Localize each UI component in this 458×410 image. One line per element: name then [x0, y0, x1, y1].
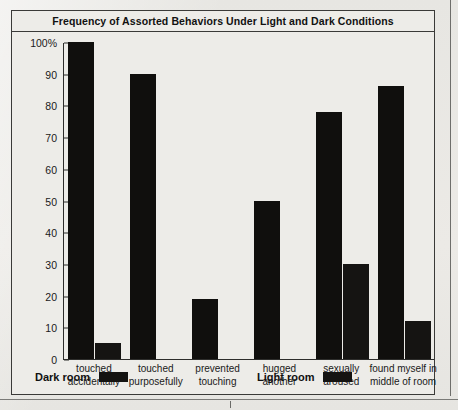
y-axis-label: 70: [45, 132, 57, 144]
bar-dark-room: [316, 112, 342, 359]
y-axis-label: 90: [45, 69, 57, 81]
chart-title-bar: Frequency of Assorted Behaviors Under Li…: [12, 11, 434, 32]
y-axis-label: 100%: [30, 37, 57, 49]
page-bottom-rule: [0, 399, 458, 400]
y-axis-label: 60: [45, 164, 57, 176]
y-axis-label: 80: [45, 100, 57, 112]
bar-light-room: [95, 343, 121, 359]
y-axis-label: 20: [45, 291, 57, 303]
bar-light-room: [405, 321, 431, 359]
chart-title: Frequency of Assorted Behaviors Under Li…: [52, 15, 393, 27]
bar-dark-room: [68, 42, 94, 359]
y-axis-tick: [64, 360, 69, 361]
chart-legend: Dark room Light room: [35, 371, 430, 387]
plot-wrapper: 0102030405060708090100%: [63, 43, 434, 360]
legend-label-light-room: Light room: [257, 371, 314, 383]
chart-figure: Frequency of Assorted Behaviors Under Li…: [11, 10, 435, 395]
legend-swatch-dark-room: [99, 372, 128, 382]
y-axis-label: 10: [45, 322, 57, 334]
legend-swatch-light-room: [323, 372, 352, 382]
page-gutter-rule: [450, 0, 451, 396]
bar-dark-room: [254, 201, 280, 360]
legend-entry-light-room: Light room: [257, 371, 352, 383]
y-axis-label: 50: [45, 196, 57, 208]
bar-light-room: [343, 264, 369, 359]
y-axis-label: 40: [45, 227, 57, 239]
bar-dark-room: [130, 74, 156, 359]
legend-entry-dark-room: Dark room: [35, 371, 128, 383]
plot-area: 0102030405060708090100%: [63, 43, 434, 360]
legend-label-dark-room: Dark room: [35, 371, 90, 383]
bar-dark-room: [192, 299, 218, 359]
bar-dark-room: [378, 86, 404, 359]
page-center-tick: [230, 401, 231, 408]
y-axis-label: 30: [45, 259, 57, 271]
